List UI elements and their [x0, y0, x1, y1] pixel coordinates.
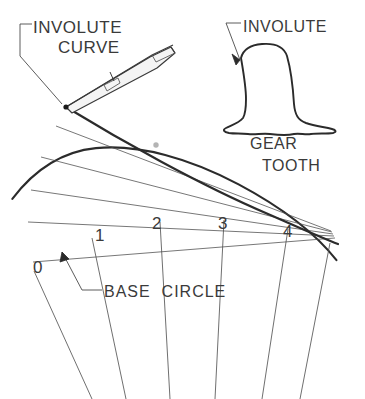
involute-curve-label-line2: CURVE	[58, 38, 120, 58]
involute-curve-label-line1: INVOLUTE	[33, 18, 122, 38]
tick-label-3: 3	[218, 214, 227, 234]
base-circle-arrowhead	[60, 252, 69, 262]
radial-line-4	[262, 229, 288, 399]
base-circle-label: BASE CIRCLE	[104, 283, 226, 301]
involute-tooth-label: INVOLUTE	[243, 18, 327, 36]
paper-speck	[153, 142, 158, 147]
gear-label: GEAR	[250, 135, 297, 153]
tooth-label: TOOTH	[262, 157, 320, 175]
involute-curve-figure: INVOLUTE CURVE INVOLUTE GEAR TOOTH BASE …	[0, 0, 365, 399]
tick-label-1: 1	[95, 226, 104, 246]
tick-label-4: 4	[283, 222, 292, 242]
tick-label-2: 2	[152, 214, 161, 234]
tick-label-0: 0	[33, 258, 42, 278]
radial-line-1	[92, 238, 126, 399]
gear-tooth-outline	[224, 44, 336, 135]
involute-apex-point	[63, 104, 68, 109]
radial-lines	[34, 220, 330, 399]
radial-line-2	[160, 222, 170, 399]
diagram-canvas	[0, 0, 365, 399]
radial-line-5	[300, 243, 330, 399]
involute-tooth-leader	[226, 23, 241, 65]
base-circle-leader	[60, 252, 102, 290]
